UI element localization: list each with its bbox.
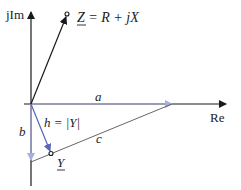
impedance-equation: Z = R + jX <box>77 10 139 25</box>
admittance-symbol: Y <box>57 155 66 170</box>
imaginary-axis-label: jIm <box>5 7 24 22</box>
segment-b-label: b <box>19 124 26 139</box>
impedance-vector <box>31 17 66 104</box>
h-equation-left: h = <box>44 115 66 130</box>
admittance-phasor-diagram: jIm Re Z = R + jX a b c h = |Y| Y <box>0 0 241 190</box>
segment-a-label: a <box>95 89 102 104</box>
impedance-symbol: Z <box>77 10 85 25</box>
impedance-point <box>65 12 69 16</box>
segment-c-label: c <box>96 131 102 146</box>
impedance-equation-rest: = R + jX <box>85 10 139 25</box>
h-equation-abs: |Y| <box>66 115 80 130</box>
h-equation: h = |Y| <box>44 115 80 130</box>
real-axis-label: Re <box>210 110 225 125</box>
admittance-point <box>49 152 53 156</box>
